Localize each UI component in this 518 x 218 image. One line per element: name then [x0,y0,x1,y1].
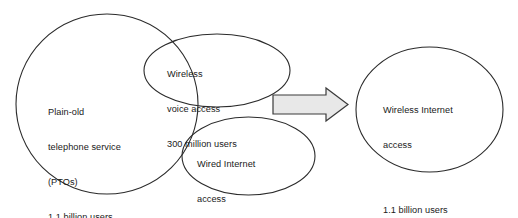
label-line: Wireless [167,69,237,81]
label-line: Wireless Internet [383,105,453,117]
label-line: Plain-old [48,107,121,119]
label-line: voice access [167,104,237,116]
label-line: 1.1 billion users [383,205,453,217]
label-line: access [197,194,267,206]
right-arrow-icon [273,88,348,121]
label-wireless-internet-access: Wireless Internet access 1.1 billion use… [383,82,453,218]
label-wired-internet-access: Wired Internet access 200 million users [197,136,267,218]
label-line: 1.1 billion users [48,212,121,218]
label-line: access [383,140,453,152]
diagram-canvas: Plain-old telephone service (PTOs) 1.1 b… [0,0,518,218]
label-line: telephone service [48,142,121,154]
label-line: Wired Internet [197,159,267,171]
label-plain-old-telephone-service: Plain-old telephone service (PTOs) 1.1 b… [48,84,121,218]
label-line: (PTOs) [48,177,121,189]
label-line-spacer [383,175,453,182]
